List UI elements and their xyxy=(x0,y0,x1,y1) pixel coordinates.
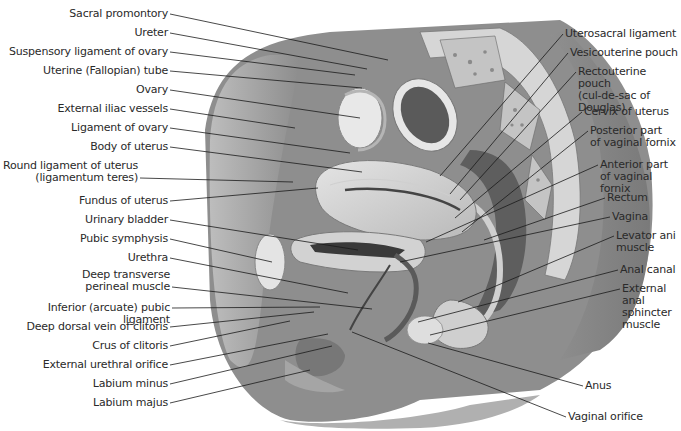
label-labium-majus: Labium majus xyxy=(93,397,168,409)
label-anal-canal: Anal canal xyxy=(620,264,675,276)
label-uterosacral-ligament: Uterosacral ligament xyxy=(565,28,676,40)
label-rectum: Rectum xyxy=(607,192,648,204)
label-anus: Anus xyxy=(585,380,611,392)
label-deep-dorsal-vein-of-clitoris: Deep dorsal vein of clitoris xyxy=(26,321,168,333)
label-posterior-vaginal-fornix: Posterior part of vaginal fornix xyxy=(590,125,676,149)
pubic-symphysis xyxy=(255,234,285,290)
label-vaginal-orifice: Vaginal orifice xyxy=(568,411,643,423)
label-sacral-promontory: Sacral promontory xyxy=(69,8,168,20)
label-pubic-symphysis: Pubic symphysis xyxy=(80,233,168,245)
label-deep-transverse-perineal-muscle: Deep transverse perineal muscle xyxy=(82,269,170,293)
label-cervix-of-uterus: Cervix of uterus xyxy=(584,106,669,118)
label-ureter: Ureter xyxy=(134,27,168,39)
label-external-urethral-orifice: External urethral orifice xyxy=(43,359,168,371)
label-external-anal-sphincter: External anal sphincter muscle xyxy=(622,283,672,331)
label-levator-ani-muscle: Levator ani muscle xyxy=(616,230,676,254)
label-vagina: Vagina xyxy=(612,211,648,223)
label-ligament-of-ovary: Ligament of ovary xyxy=(71,122,168,134)
label-vesicouterine-pouch: Vesicouterine pouch xyxy=(570,47,678,59)
label-external-iliac-vessels: External iliac vessels xyxy=(58,103,168,115)
label-crus-of-clitoris: Crus of clitoris xyxy=(92,340,168,352)
label-uterine-tube: Uterine (Fallopian) tube xyxy=(43,65,168,77)
label-suspensory-ligament-of-ovary: Suspensory ligament of ovary xyxy=(9,46,168,58)
label-ovary: Ovary xyxy=(136,84,168,96)
label-anterior-vaginal-fornix: Anterior part of vaginal fornix xyxy=(600,159,681,195)
label-fundus-of-uterus: Fundus of uterus xyxy=(79,195,168,207)
anatomy-figure: Sacral promontoryUreterSuspensory ligame… xyxy=(0,0,681,431)
label-labium-minus: Labium minus xyxy=(93,378,168,390)
label-urethra: Urethra xyxy=(128,252,168,264)
ovary xyxy=(338,88,385,150)
label-urinary-bladder: Urinary bladder xyxy=(85,214,168,226)
label-round-ligament-of-uterus: Round ligament of uterus (ligamentum ter… xyxy=(3,160,138,184)
label-body-of-uterus: Body of uterus xyxy=(90,141,168,153)
